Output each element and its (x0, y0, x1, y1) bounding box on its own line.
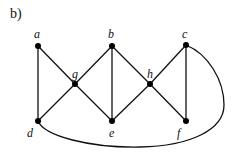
label-e: e (109, 126, 115, 140)
edge-g-d (38, 84, 75, 121)
node-d (35, 118, 41, 124)
node-g (72, 81, 78, 87)
node-b (109, 43, 115, 49)
graph-diagram: a b c g h d e f (0, 0, 238, 159)
edge-a-g (38, 46, 75, 84)
label-g: g (72, 67, 78, 81)
node-h (147, 81, 153, 87)
label-a: a (34, 27, 40, 41)
label-c: c (182, 27, 188, 41)
node-c (183, 42, 189, 48)
edge-h-c (150, 45, 186, 84)
edge-h-f (150, 84, 186, 121)
edge-h-e (112, 84, 150, 121)
edge-b-h (112, 46, 150, 84)
label-h: h (147, 67, 153, 81)
label-f: f (177, 126, 182, 140)
node-f (183, 118, 189, 124)
node-e (109, 118, 115, 124)
node-a (35, 43, 41, 49)
label-b: b (108, 27, 114, 41)
label-d: d (27, 126, 34, 140)
edge-g-e (75, 84, 112, 121)
edge-d-c-curved (38, 45, 224, 147)
edge-g-b (75, 46, 112, 84)
